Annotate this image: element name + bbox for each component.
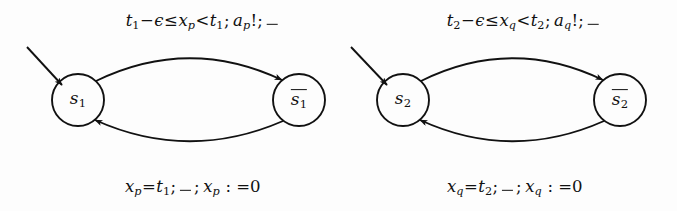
blank-placeholder	[587, 24, 598, 25]
transition-arc-forward[interactable]	[96, 58, 282, 81]
edge-label-forward-p: t1−ϵ≤xp<t1;ap!;	[126, 13, 281, 31]
blank-placeholder	[180, 190, 191, 191]
blank-placeholder	[266, 24, 277, 25]
automaton-p: s1s1t1−ϵ≤xp<t1;ap!;xp=t1;;xp : =0	[0, 0, 340, 211]
initial-arrow-p	[27, 47, 62, 85]
transition-arc-return[interactable]	[95, 120, 283, 141]
state-s2-label: s2	[395, 90, 411, 110]
edge-label-reset-q: xq=t2;;xq : =0	[447, 179, 583, 197]
state-s1-label: s1	[70, 90, 86, 110]
transition-arc-forward[interactable]	[421, 58, 603, 81]
blank-placeholder	[502, 190, 513, 191]
state-s1-bar-label: s1	[291, 89, 307, 111]
state-s2-bar-label: s2	[612, 89, 628, 111]
edge-label-forward-q: t2−ϵ≤xq<t2;aq!;	[447, 13, 602, 31]
edge-label-reset-p: xp=t1;;xp : =0	[125, 179, 261, 197]
initial-arrow-q	[351, 47, 387, 85]
transition-arc-return[interactable]	[420, 120, 604, 141]
automata-figure: s1s1t1−ϵ≤xp<t1;ap!;xp=t1;;xp : =0 s2s2t2…	[0, 0, 677, 211]
automaton-q: s2s2t2−ϵ≤xq<t2;aq!;xq=t2;;xq : =0	[337, 0, 677, 211]
